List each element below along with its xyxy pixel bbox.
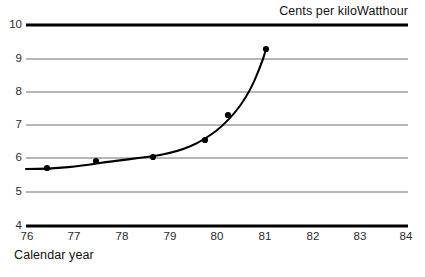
fitted-curve [26,49,266,169]
data-point [150,154,156,160]
data-points [44,46,269,171]
data-point [93,158,99,164]
gridlines [26,59,408,192]
data-point [44,165,50,171]
data-point [225,112,231,118]
data-point [263,46,269,52]
plot-area [0,0,425,277]
chart-container: Cents per kiloWatthour 10 9 8 7 6 5 4 76… [0,0,425,277]
data-point [202,137,208,143]
